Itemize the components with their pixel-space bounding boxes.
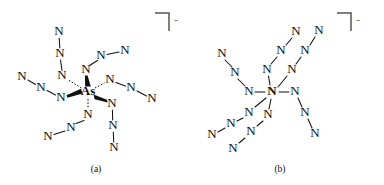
bond-a-rt-dash [95, 83, 105, 88]
atom-a-up-1: N [81, 61, 91, 76]
panel-b-structure: N N N N N N N N N N N N N N N N N N N [207, 13, 360, 176]
atom-b-rt-2: N [300, 104, 310, 119]
bond-a-dn-2-3 [54, 131, 65, 135]
atom-b-ul-1: N [244, 83, 254, 98]
atom-a-up-2: N [96, 47, 106, 62]
atom-a-rd-1: N [107, 95, 117, 110]
panel-a-caption: (a) [91, 164, 102, 175]
atom-b-ul-3: N [217, 45, 227, 60]
center-atom-as: As [81, 83, 95, 98]
bond-b-dn-2-3 [239, 138, 245, 143]
atom-a-up-3: N [120, 42, 130, 57]
atom-a-dn-2: N [66, 119, 76, 134]
bond-b-ur-2-3 [310, 37, 315, 45]
atom-a-dn-3: N [43, 128, 53, 143]
center-atom-n: N [267, 83, 277, 98]
bond-b-dl-2-3 [218, 128, 225, 132]
bond-a-ul-dash [68, 80, 82, 89]
bond-a-up-2-3 [107, 52, 119, 55]
panel-b-atoms: N N N N N N N N N N N N N N N N N N N [207, 22, 324, 155]
atom-a-rt-1: N [105, 71, 115, 86]
bond-a-lf-2-3 [28, 80, 36, 85]
bond-b-up-2-3 [286, 38, 292, 45]
bond-a-lf-1-2 [47, 91, 56, 96]
atom-b-rt-1: N [290, 83, 300, 98]
bond-b-ur-0-1 [278, 76, 287, 87]
atom-a-lf-3: N [17, 68, 27, 83]
atom-b-ul-2: N [230, 64, 240, 79]
atom-b-rt-3: N [310, 125, 320, 140]
figure-canvas: As N N N N N N N N N N N N N N N N N N [0, 0, 384, 185]
atom-a-rd-3: N [109, 139, 119, 154]
panel-a-atoms: As N N N N N N N N N N N N N N N N N N [17, 23, 157, 154]
bond-b-dl-1-2 [237, 118, 243, 121]
atom-a-lf-1: N [56, 89, 66, 104]
panel-a-structure: As N N N N N N N N N N N N N N N N N N [17, 13, 178, 176]
atom-b-up-3: N [291, 23, 301, 38]
atom-a-rd-2: N [108, 117, 118, 132]
atom-a-lf-2: N [36, 79, 46, 94]
atom-b-up-1: N [262, 61, 272, 76]
atom-a-ul-2: N [55, 45, 65, 60]
bond-a-rt-2-3 [137, 91, 147, 96]
charge-bracket-b [337, 13, 351, 31]
panel-b-caption: (b) [274, 164, 285, 175]
atom-b-dl-1: N [244, 104, 254, 119]
bond-b-up-1-2 [271, 57, 277, 64]
bond-b-ur-1-2 [296, 57, 301, 64]
atom-a-ul-1: N [57, 67, 67, 82]
atom-a-ul-3: N [54, 23, 64, 38]
charge-label-b: - [356, 13, 360, 25]
atom-b-ur-3: N [314, 22, 324, 37]
atom-b-ur-2: N [300, 42, 310, 57]
atom-b-dn-3: N [228, 140, 238, 155]
atom-b-dl-3: N [207, 126, 217, 141]
atom-b-up-2: N [276, 42, 286, 57]
bond-a-rt-1-2 [116, 83, 126, 87]
atom-b-dn-1: N [263, 106, 273, 121]
atom-a-rt-3: N [147, 90, 157, 105]
atom-b-dn-2: N [246, 123, 256, 138]
atom-a-dn-1: N [83, 106, 93, 121]
atom-b-dl-2: N [226, 115, 236, 130]
wedge-bond-as-rightdown [94, 95, 108, 103]
atom-b-ur-1: N [287, 61, 297, 76]
chemical-structure-figure: As N N N N N N N N N N N N N N N N N N [0, 0, 384, 185]
charge-bracket-a [155, 13, 169, 31]
atom-a-rt-2: N [126, 79, 136, 94]
bond-b-dn-1-2 [257, 121, 263, 126]
charge-label-a: - [174, 13, 178, 25]
